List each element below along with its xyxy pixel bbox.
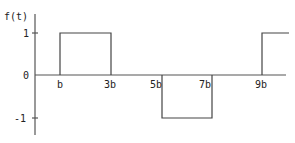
y-axis-label: f(t) [4,11,28,22]
x-tick-label-b: b [57,79,63,90]
x-tick-label-3b: 3b [104,79,116,90]
positive-pulse [60,33,111,75]
y-tick-label-1: 1 [23,28,29,39]
x-tick-label-5b: 5b [150,79,162,90]
y-tick-label-0: 0 [23,70,29,81]
x-tick-label-7b: 7b [199,79,211,90]
positive-pulse-partial [262,33,289,75]
x-tick-label-9b: 9b [255,79,267,90]
y-tick-label-neg1: -1 [14,113,26,124]
waveform-diagram: f(t) 1 0 -1 b 3b 5b 7b 9b [0,0,295,143]
